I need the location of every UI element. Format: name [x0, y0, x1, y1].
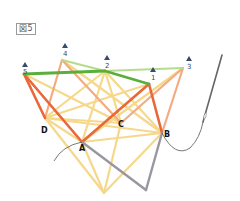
pin-3: 3 [186, 56, 192, 71]
svg-text:3: 3 [187, 63, 191, 71]
pin-2: 2 [104, 55, 110, 70]
pin-triangle-icon [104, 55, 110, 60]
needle-icon [203, 55, 222, 122]
svg-text:1: 1 [151, 74, 155, 82]
point-b-label: B [164, 130, 170, 139]
pin-triangle-icon [186, 56, 192, 61]
svg-text:4: 4 [63, 50, 68, 58]
string-art-diagram: 1 2 3 4 5 A B C D [0, 0, 240, 201]
pin-triangle-icon [22, 62, 28, 67]
point-c-label: C [118, 120, 124, 129]
point-d-label: D [41, 126, 48, 135]
svg-text:5: 5 [23, 68, 27, 76]
pin-triangle-icon [62, 43, 68, 48]
point-a-label: A [79, 144, 86, 153]
pin-5: 5 [22, 62, 28, 76]
svg-text:2: 2 [105, 62, 109, 70]
green-strings [24, 60, 183, 84]
pin-4: 4 [62, 43, 68, 58]
